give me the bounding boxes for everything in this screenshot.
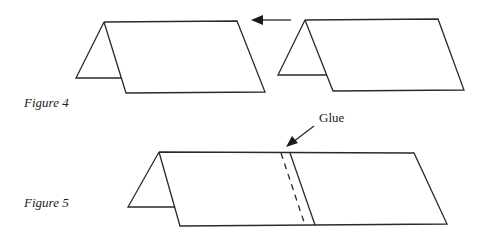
move-left-arrow-icon (251, 15, 291, 25)
figure-5-label: Figure 5 (23, 195, 69, 210)
figure-5-joined-piece (128, 152, 447, 226)
right-piece-end-triangle (278, 20, 327, 75)
glue-pointer-arrow-icon (286, 126, 314, 147)
left-piece-slope (104, 21, 265, 93)
right-piece-slope (305, 19, 464, 91)
joined-piece-end-triangle (128, 152, 175, 207)
figure-4-label: Figure 4 (23, 95, 69, 110)
glue-overlap-dashed-line (281, 153, 305, 225)
left-piece-end-triangle (76, 22, 122, 78)
figure-4-left-piece (76, 21, 265, 93)
glue-overlap-edge-line (290, 153, 315, 225)
glue-label: Glue (319, 110, 345, 125)
diagram-canvas: Figure 4 Glue Figure 5 (0, 0, 490, 238)
figure-4-right-piece (278, 19, 464, 91)
